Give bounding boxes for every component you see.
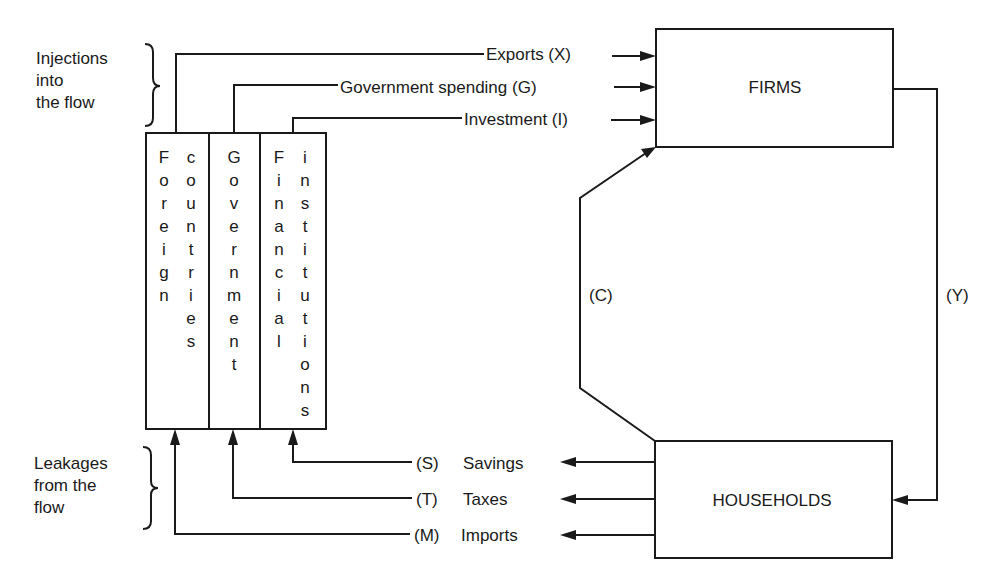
column-letter: l <box>277 332 281 351</box>
leakages-label-line-1: Leakages <box>34 454 108 473</box>
column-letter: o <box>159 171 168 190</box>
government-spending-arrowhead-icon <box>640 82 656 92</box>
consumption-label: (C) <box>589 286 613 305</box>
column-letter: s <box>301 194 310 213</box>
column-letter: F <box>159 148 169 167</box>
savings-code: (S) <box>416 454 439 473</box>
injections-label-line-2: into <box>36 71 63 90</box>
column-letter: t <box>303 263 308 282</box>
column-letter: n <box>229 263 238 282</box>
column-letter: m <box>227 286 241 305</box>
imports-code: (M) <box>414 526 439 545</box>
investment-line <box>293 118 462 133</box>
savings-arrowhead-icon <box>560 457 576 467</box>
column-letter: n <box>300 378 309 397</box>
column-letter: r <box>188 263 194 282</box>
consumption-flow: (C) <box>580 147 656 441</box>
injections-side-label: Injections into the flow <box>36 44 160 126</box>
imports-label: Imports <box>461 526 518 545</box>
sector-columns: Foreign countries Government Financial i… <box>146 133 326 429</box>
government-spending-line <box>234 85 338 133</box>
column-letter: c <box>187 148 196 167</box>
leakage-flows: (S) Savings (T) Taxes (M) Imports <box>170 429 655 545</box>
column-letter: i <box>303 148 307 167</box>
column-letter: i <box>303 240 307 259</box>
column-letter: c <box>275 263 284 282</box>
column-letter: e <box>229 217 238 236</box>
foreign-countries-column <box>146 133 209 429</box>
column-letter: a <box>274 217 284 236</box>
column-letter: i <box>162 240 166 259</box>
income-label: (Y) <box>946 286 969 305</box>
column-letter: F <box>274 148 284 167</box>
column-letter: e <box>186 309 195 328</box>
column-letter: o <box>186 171 195 190</box>
taxes-up-arrowhead-icon <box>228 429 238 445</box>
savings-label: Savings <box>463 454 523 473</box>
column-letter: i <box>189 286 193 305</box>
column-letter: o <box>229 171 238 190</box>
injections-label-line-3: the flow <box>36 93 95 112</box>
column-letter: n <box>186 217 195 236</box>
column-letter: t <box>303 309 308 328</box>
leakages-side-label: Leakages from the flow <box>34 447 158 529</box>
imports-up-arrowhead-icon <box>170 429 180 445</box>
imports-arrowhead-icon <box>560 530 576 540</box>
column-letter: s <box>187 332 196 351</box>
column-letter: v <box>230 194 239 213</box>
injections-brace-icon <box>145 44 160 126</box>
column-letter: e <box>159 217 168 236</box>
column-letter: r <box>231 240 237 259</box>
exports-label: Exports (X) <box>486 45 571 64</box>
exports-arrowhead-icon <box>640 51 656 61</box>
column-letter: g <box>159 263 168 282</box>
taxes-line <box>233 439 412 498</box>
income-arrowhead-icon <box>892 495 908 505</box>
column-letter: s <box>301 401 310 420</box>
column-letter: G <box>227 148 240 167</box>
column-letter: r <box>161 194 167 213</box>
column-letter: o <box>300 355 309 374</box>
leakages-label-line-3: flow <box>34 498 65 517</box>
taxes-arrowhead-icon <box>560 494 576 504</box>
government-spending-label: Government spending (G) <box>340 78 537 97</box>
income-line <box>893 89 937 500</box>
column-letter: n <box>274 240 283 259</box>
column-letter: n <box>159 286 168 305</box>
column-letter: i <box>277 286 281 305</box>
circular-flow-diagram: Injections into the flow Leakages from t… <box>0 0 1006 584</box>
column-letter: t <box>303 217 308 236</box>
leakages-brace-icon <box>143 447 158 529</box>
column-letter: n <box>229 332 238 351</box>
financial-institutions-column <box>260 133 326 429</box>
column-letter: u <box>300 286 309 305</box>
column-letter: i <box>303 332 307 351</box>
households-node: HOUSEHOLDS <box>655 441 892 558</box>
households-label: HOUSEHOLDS <box>712 491 831 510</box>
firms-label: FIRMS <box>749 78 802 97</box>
income-flow: (Y) <box>892 89 969 505</box>
taxes-label: Taxes <box>463 490 507 509</box>
firms-node: FIRMS <box>656 29 893 147</box>
taxes-code: (T) <box>416 490 438 509</box>
investment-arrowhead-icon <box>640 115 656 125</box>
injections-label-line-1: Injections <box>36 49 108 68</box>
column-letter: n <box>274 194 283 213</box>
column-letter: u <box>186 194 195 213</box>
savings-up-arrowhead-icon <box>288 429 298 445</box>
column-letter: i <box>277 171 281 190</box>
column-letter: e <box>229 309 238 328</box>
column-letter: a <box>274 309 284 328</box>
foreign-vertical-text: Foreign <box>159 148 169 305</box>
injection-flows: Exports (X) Government spending (G) Inve… <box>176 45 656 133</box>
column-letter: t <box>232 355 237 374</box>
savings-line <box>293 439 412 462</box>
column-letter: t <box>189 240 194 259</box>
leakages-label-line-2: from the <box>34 476 96 495</box>
investment-label: Investment (I) <box>464 110 568 129</box>
consumption-arrowhead-icon <box>641 147 656 158</box>
column-letter: n <box>300 171 309 190</box>
